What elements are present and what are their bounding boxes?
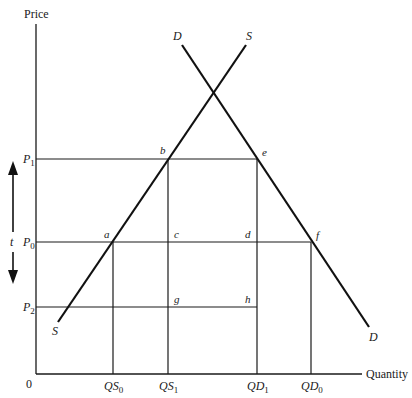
demand-curve (182, 45, 369, 327)
arrow-up-icon (8, 161, 18, 175)
tariff-label: t (10, 235, 14, 249)
qs0-label: QS0 (104, 379, 124, 395)
demand-label-bottom: D (368, 330, 378, 344)
qs1-label: QS1 (159, 379, 178, 395)
origin-label: 0 (26, 377, 32, 391)
p0-label: P0 (22, 235, 35, 251)
axes: Price Quantity 0 (24, 7, 408, 391)
quantity-guides (113, 159, 311, 374)
point-a-label: a (104, 228, 110, 240)
qd0-label: QD0 (301, 379, 323, 395)
demand-label-top: D (172, 29, 182, 43)
supply-curve (58, 45, 246, 322)
point-g-label: g (174, 293, 180, 305)
point-f-label: f (316, 229, 321, 241)
point-d-label: d (245, 228, 251, 240)
point-e-label: e (262, 146, 267, 158)
tariff-arrow: t (8, 161, 18, 284)
point-c-label: c (174, 228, 179, 240)
point-labels: a b c d e f g h (104, 144, 321, 305)
supply-label-top: S (246, 29, 252, 43)
qd1-label: QD1 (247, 379, 269, 395)
price-labels: P1 P0 P2 (22, 152, 35, 316)
p2-label: P2 (22, 300, 35, 316)
supply-label-bottom: S (52, 324, 58, 338)
supply-demand-tariff-diagram: Price Quantity 0 S S D D P1 P0 P2 (0, 0, 412, 398)
quantity-labels: QS0 QS1 QD1 QD0 (104, 379, 323, 395)
point-b-label: b (160, 144, 166, 156)
x-axis-label: Quantity (366, 367, 408, 381)
curves: S S D D (52, 29, 378, 344)
point-h-label: h (245, 293, 251, 305)
arrow-down-icon (8, 270, 18, 284)
y-axis-label: Price (24, 7, 49, 21)
p1-label: P1 (22, 152, 35, 168)
